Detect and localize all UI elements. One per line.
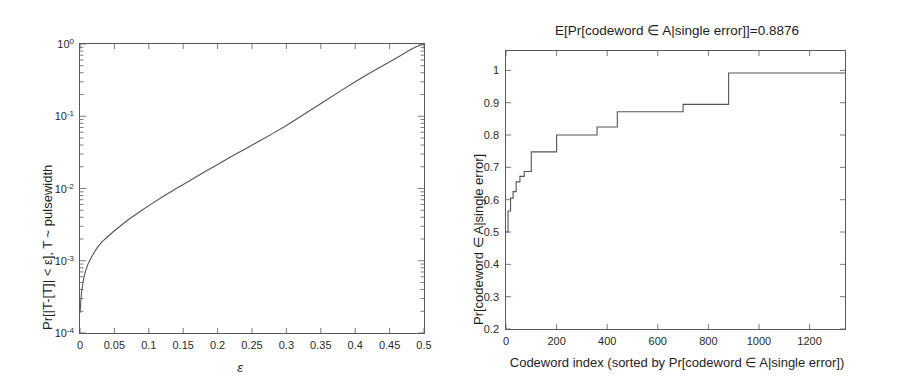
left-x-tick: 0.4 xyxy=(348,340,363,351)
left-x-tick: 0.5 xyxy=(416,340,431,351)
left-x-tick: 0.25 xyxy=(241,340,262,351)
left-x-tick: 0.3 xyxy=(279,340,294,351)
left-curve-svg xyxy=(80,44,424,333)
right-x-tick: 200 xyxy=(547,336,565,347)
right-x-tick: 800 xyxy=(699,336,717,347)
right-y-tick: 1 xyxy=(465,65,499,76)
left-y-axis-label: Pr[|T-[T]| < ε], T ~ pulsewidth xyxy=(40,165,55,330)
left-x-tick: 0.1 xyxy=(141,340,156,351)
left-x-tick: 0.05 xyxy=(104,340,125,351)
right-figure-panel: E[Pr[codeword ∈ A|single error]]=0.8876 … xyxy=(451,0,903,389)
right-plot-axes xyxy=(505,50,846,330)
right-x-tick: 0 xyxy=(503,336,509,347)
left-x-tick: 0.35 xyxy=(310,340,331,351)
right-y-tick: 0.9 xyxy=(465,97,499,108)
left-plot-axes xyxy=(79,43,425,334)
right-step-svg xyxy=(506,51,845,329)
right-x-axis-label: Codeword index (sorted by Pr[codeword ∈ … xyxy=(510,355,844,370)
left-y-tick: 10-1 xyxy=(40,110,74,123)
left-y-tick: 100 xyxy=(40,38,74,51)
left-x-tick: 0.15 xyxy=(172,340,193,351)
right-x-tick: 1000 xyxy=(747,336,771,347)
left-x-axis-label: ε xyxy=(237,360,243,375)
right-x-tick: 1200 xyxy=(797,336,821,347)
right-x-tick: 600 xyxy=(649,336,667,347)
left-figure-panel: 10010-110-210-310-4 00.050.10.150.20.250… xyxy=(0,0,451,389)
right-y-tick: 0.2 xyxy=(465,324,499,335)
left-x-tick: 0 xyxy=(77,340,83,351)
left-x-tick: 0.2 xyxy=(210,340,225,351)
right-y-axis-label: Pr[codeword ∈ A|single error] xyxy=(471,154,486,325)
right-x-tick: 400 xyxy=(598,336,616,347)
right-plot-title: E[Pr[codeword ∈ A|single error]]=0.8876 xyxy=(555,22,799,38)
left-x-tick: 0.45 xyxy=(379,340,400,351)
right-y-tick: 0.8 xyxy=(465,130,499,141)
